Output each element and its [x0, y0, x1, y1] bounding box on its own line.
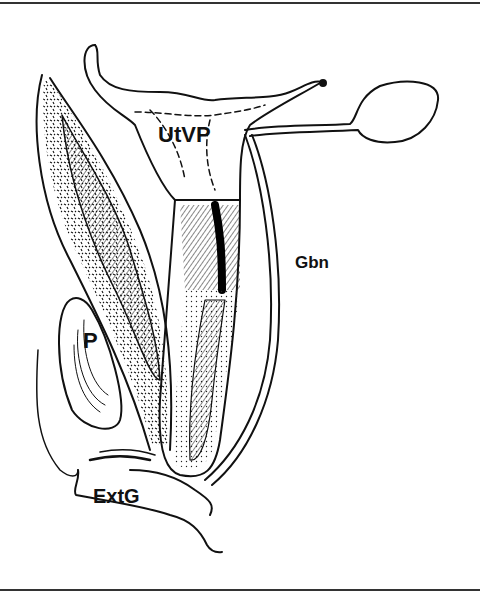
bottom-rule	[0, 589, 480, 591]
anatomical-figure: UtVP Gbn P ExtG	[0, 0, 480, 601]
anatomy-drawing	[0, 0, 480, 601]
label-extg: ExtG	[93, 485, 140, 508]
extg-structure	[75, 470, 222, 552]
label-utvp: UtVP	[158, 122, 211, 148]
label-p: P	[83, 328, 98, 354]
label-gbn: Gbn	[295, 253, 329, 273]
